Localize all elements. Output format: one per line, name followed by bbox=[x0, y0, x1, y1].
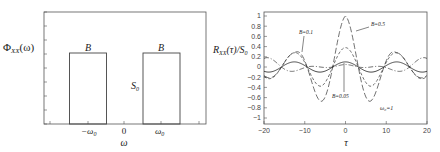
curve-b-0-5 bbox=[264, 16, 427, 101]
right-ytick-label: 0.2 bbox=[251, 53, 261, 60]
left-ylabel: ΦXX(ω) bbox=[3, 41, 35, 55]
right-ytick-label: 1 bbox=[257, 12, 261, 19]
label-b-0-1: B=0.1 bbox=[299, 29, 313, 35]
xtick-pos-omega0: ω0 bbox=[155, 126, 164, 137]
band-label-left: B bbox=[85, 42, 91, 53]
right-ytick-label: 0 bbox=[257, 63, 261, 70]
right-plot: 10.80.60.40.20−0.2−0.4−0.6−0.8−1−20−1001… bbox=[212, 12, 431, 148]
arrow-b-0-5 bbox=[356, 27, 369, 31]
xtick-zero: 0 bbox=[122, 126, 127, 136]
right-xtick-label: −10 bbox=[299, 127, 311, 134]
label-b-0-05: B=0.05 bbox=[332, 93, 349, 99]
right-xtick-label: 0 bbox=[344, 127, 348, 134]
right-plot-frame bbox=[264, 12, 427, 124]
left-xlabel: ω bbox=[120, 137, 127, 148]
right-xtick-label: 10 bbox=[382, 127, 390, 134]
right-ytick-label: 0.8 bbox=[251, 23, 261, 30]
curve-other bbox=[264, 58, 427, 72]
label-omega0: ω₀=1 bbox=[380, 105, 393, 111]
right-plot-ticks: 10.80.60.40.20−0.2−0.4−0.6−0.8−1−20−1001… bbox=[247, 12, 431, 134]
right-ytick-label: −0.8 bbox=[247, 104, 261, 111]
right-ytick-label: 0.4 bbox=[251, 43, 261, 50]
right-ylabel: RXX(τ)/S0 bbox=[212, 44, 247, 56]
right-xtick-label: 20 bbox=[423, 127, 431, 134]
label-b-0-5: B=0.5 bbox=[371, 21, 385, 27]
curve-b-0-05 bbox=[264, 62, 427, 72]
left-plot-ticks bbox=[44, 12, 199, 124]
band-left bbox=[70, 53, 107, 124]
right-ytick-label: −1 bbox=[253, 114, 261, 121]
right-ytick-label: −0.6 bbox=[247, 94, 261, 101]
right-xlabel: τ bbox=[344, 137, 348, 148]
band-label-right: B bbox=[158, 42, 164, 53]
xtick-neg-omega0: −ω0 bbox=[81, 126, 96, 137]
right-ytick-label: −0.4 bbox=[247, 84, 261, 91]
correlation-curves bbox=[264, 16, 427, 101]
right-ytick-label: 0.6 bbox=[251, 33, 261, 40]
left-plot: B B S0 ΦXX(ω) −ω0 0 ω0 ω bbox=[3, 12, 206, 148]
left-plot-frame bbox=[44, 12, 206, 124]
arrow-b-0-1 bbox=[302, 36, 304, 52]
figure: B B S0 ΦXX(ω) −ω0 0 ω0 ω 10.80.60.40.20−… bbox=[0, 0, 440, 152]
curve-b-0-1 bbox=[264, 48, 427, 87]
right-ytick-label: −0.2 bbox=[247, 74, 261, 81]
right-xtick-label: −20 bbox=[258, 127, 270, 134]
height-label: S0 bbox=[131, 80, 139, 92]
band-right bbox=[143, 53, 180, 124]
